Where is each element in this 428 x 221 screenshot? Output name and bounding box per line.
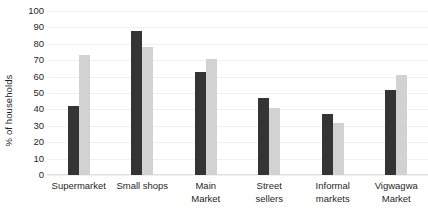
bar-groups: [47, 11, 428, 175]
x-axis-category-labels: SupermarketSmall shopsMainMarketStreetse…: [47, 180, 428, 221]
bar[interactable]: [385, 90, 396, 175]
y-axis-tick-label: 40: [33, 105, 44, 115]
x-axis-category-label-line: Market: [366, 193, 428, 206]
bar[interactable]: [206, 59, 217, 175]
x-axis-category-label: Small shops: [111, 180, 175, 221]
y-axis-tick-label: 0: [39, 170, 44, 180]
bar-chart: % of households 0102030405060708090100 S…: [0, 0, 428, 221]
y-axis-tick-label: 50: [33, 88, 44, 98]
x-axis-category-label-line: Small shops: [112, 180, 174, 193]
x-axis-category-label-line: Vigwagwa: [366, 180, 428, 193]
bar-group: [238, 11, 302, 175]
x-axis-category-label-line: Main: [175, 180, 237, 193]
x-axis-category-label-line: markets: [302, 193, 364, 206]
y-axis-tick-label: 30: [33, 121, 44, 131]
bar[interactable]: [142, 47, 153, 175]
x-axis-category-label-line: Market: [175, 193, 237, 206]
bar-group: [47, 11, 111, 175]
x-axis-category-label-line: sellers: [239, 193, 301, 206]
x-axis-category-label-line: Supermarket: [48, 180, 110, 193]
y-axis-tick-labels: 0102030405060708090100: [18, 0, 44, 221]
bar[interactable]: [68, 106, 79, 175]
bar-group: [111, 11, 175, 175]
bar[interactable]: [322, 114, 333, 175]
x-axis-category-label: MainMarket: [174, 180, 238, 221]
x-axis-category-label: VigwagwaMarket: [365, 180, 428, 221]
bars: [174, 11, 238, 175]
y-axis-tick-label: 70: [33, 55, 44, 65]
x-axis-category-label: Informalmarkets: [301, 180, 365, 221]
y-axis-title: % of households: [0, 0, 16, 221]
y-axis-tick-label: 20: [33, 137, 44, 147]
bar[interactable]: [333, 123, 344, 175]
bar[interactable]: [195, 72, 206, 175]
bar[interactable]: [79, 55, 90, 175]
x-axis-category-label: Supermarket: [47, 180, 111, 221]
gridline: [47, 175, 428, 176]
bars: [365, 11, 428, 175]
bars: [111, 11, 175, 175]
bar[interactable]: [258, 98, 269, 175]
bars: [301, 11, 365, 175]
bar-group: [301, 11, 365, 175]
x-axis-category-label-line: Street: [239, 180, 301, 193]
x-axis-category-label: Streetsellers: [238, 180, 302, 221]
bar[interactable]: [131, 31, 142, 175]
y-axis-tick-label: 10: [33, 154, 44, 164]
bar-group: [174, 11, 238, 175]
bar-group: [365, 11, 428, 175]
y-axis-tick-label: 90: [33, 23, 44, 33]
y-axis-tick-label: 100: [28, 6, 44, 16]
bars: [238, 11, 302, 175]
bars: [47, 11, 111, 175]
bar[interactable]: [396, 75, 407, 175]
x-axis-category-label-line: Informal: [302, 180, 364, 193]
plot-area: [47, 11, 428, 175]
y-axis-tick-label: 60: [33, 72, 44, 82]
y-axis-tick-label: 80: [33, 39, 44, 49]
bar[interactable]: [269, 108, 280, 175]
